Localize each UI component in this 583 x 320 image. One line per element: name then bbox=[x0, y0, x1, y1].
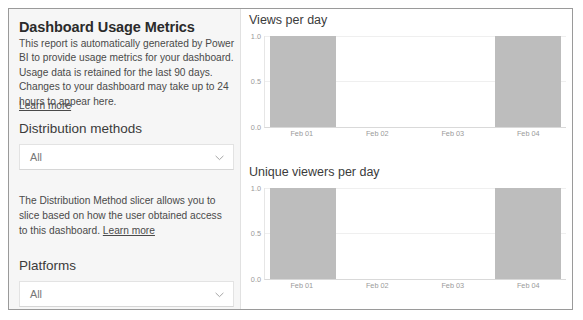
distribution-helper-text: The Distribution Method slicer allows yo… bbox=[19, 194, 231, 238]
x-tick-label: Feb 01 bbox=[264, 130, 340, 137]
usage-metrics-report: Dashboard Usage Metrics This report is a… bbox=[8, 8, 573, 310]
platforms-heading: Platforms bbox=[19, 258, 76, 274]
y-axis: 1.0 0.5 0.0 bbox=[241, 185, 263, 281]
bar-slot bbox=[265, 188, 340, 279]
charts-area: Views per day 1.0 0.5 0.0 bbox=[241, 9, 572, 309]
views-per-day-chart: Views per day 1.0 0.5 0.0 bbox=[241, 13, 572, 157]
chevron-down-icon bbox=[213, 151, 226, 164]
bar-series bbox=[265, 36, 566, 127]
bar-slot bbox=[491, 36, 566, 127]
plot-canvas bbox=[264, 188, 566, 280]
bar-slot bbox=[416, 36, 491, 127]
plot-canvas bbox=[264, 36, 566, 128]
platforms-slicer-value: All bbox=[30, 289, 213, 300]
plot-area: 1.0 0.5 0.0 Feb 01 Feb 02 bbox=[241, 185, 572, 309]
x-axis: Feb 01 Feb 02 Feb 03 Feb 04 bbox=[264, 282, 566, 289]
x-tick-label: Feb 04 bbox=[491, 130, 567, 137]
chevron-down-icon bbox=[213, 288, 226, 301]
y-tick-label: 1.0 bbox=[251, 185, 261, 192]
unique-viewers-per-day-chart: Unique viewers per day 1.0 0.5 0.0 bbox=[241, 165, 572, 309]
plot-area: 1.0 0.5 0.0 Feb 01 Feb 02 bbox=[241, 33, 572, 157]
bar-slot bbox=[265, 36, 340, 127]
y-tick-label: 0.0 bbox=[251, 124, 261, 131]
y-tick-label: 1.0 bbox=[251, 33, 261, 40]
x-tick-label: Feb 02 bbox=[340, 282, 416, 289]
x-axis: Feb 01 Feb 02 Feb 03 Feb 04 bbox=[264, 130, 566, 137]
distribution-learn-more-link[interactable]: Learn more bbox=[103, 225, 155, 236]
learn-more-link[interactable]: Learn more bbox=[19, 100, 71, 111]
chart-title: Unique viewers per day bbox=[249, 165, 380, 180]
description-learn-more-wrapper: Learn more bbox=[19, 99, 71, 113]
x-tick-label: Feb 03 bbox=[415, 282, 491, 289]
bar-slot bbox=[416, 188, 491, 279]
bar[interactable] bbox=[495, 36, 561, 127]
bar-slot bbox=[491, 188, 566, 279]
x-tick-label: Feb 02 bbox=[340, 130, 416, 137]
platforms-slicer[interactable]: All bbox=[19, 281, 234, 307]
info-slicer-panel: Dashboard Usage Metrics This report is a… bbox=[9, 9, 241, 309]
bar-slot bbox=[340, 36, 415, 127]
x-tick-label: Feb 03 bbox=[415, 130, 491, 137]
distribution-methods-slicer-value: All bbox=[30, 152, 213, 163]
distribution-methods-heading: Distribution methods bbox=[19, 121, 142, 137]
page-title: Dashboard Usage Metrics bbox=[19, 18, 234, 36]
bar[interactable] bbox=[270, 188, 336, 279]
bar-series bbox=[265, 188, 566, 279]
y-tick-label: 0.5 bbox=[251, 230, 261, 237]
bar[interactable] bbox=[270, 36, 336, 127]
bar-slot bbox=[340, 188, 415, 279]
x-tick-label: Feb 01 bbox=[264, 282, 340, 289]
y-axis: 1.0 0.5 0.0 bbox=[241, 33, 263, 129]
chart-title: Views per day bbox=[249, 13, 327, 28]
distribution-methods-slicer[interactable]: All bbox=[19, 144, 234, 170]
y-tick-label: 0.0 bbox=[251, 276, 261, 283]
y-tick-label: 0.5 bbox=[251, 78, 261, 85]
x-tick-label: Feb 04 bbox=[491, 282, 567, 289]
bar[interactable] bbox=[495, 188, 561, 279]
